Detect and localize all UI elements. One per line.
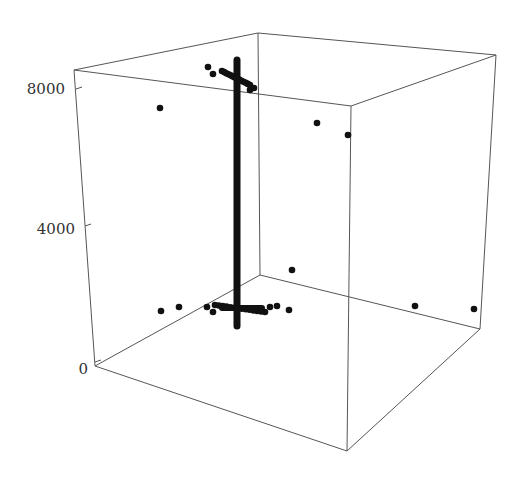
data-points [157, 60, 478, 326]
data-point [157, 105, 164, 112]
z-axis: 0 4000 8000 [27, 80, 101, 378]
data-point [158, 308, 165, 315]
z-tick-label-4000: 4000 [37, 220, 75, 238]
data-point [204, 304, 211, 311]
data-point [412, 303, 419, 310]
data-point [314, 120, 321, 127]
z-tick-4000 [85, 224, 91, 226]
data-point [471, 306, 478, 313]
z-tick-0 [95, 360, 101, 362]
z-tick-label-0: 0 [78, 360, 88, 378]
data-point [205, 64, 212, 71]
z-tick-label-8000: 8000 [27, 80, 65, 98]
z-tick-8000 [76, 87, 82, 89]
data-point [289, 267, 296, 274]
data-point [345, 132, 352, 139]
data-point [210, 309, 217, 316]
scatter-3d-plot: 0 4000 8000 [0, 0, 519, 477]
data-point [176, 304, 183, 311]
data-point [274, 303, 281, 310]
bounding-box [74, 33, 496, 451]
data-point [210, 71, 217, 78]
data-point [267, 304, 274, 311]
data-point [251, 85, 258, 92]
data-point [286, 307, 293, 314]
